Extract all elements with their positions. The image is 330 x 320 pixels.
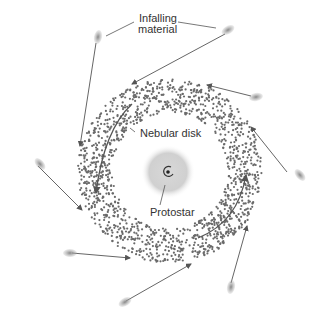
nebular-disk-diagram: Infalling material Nebular disk Protosta… [0, 0, 330, 320]
label-protostar: Protostar [150, 207, 195, 218]
label-infalling-line2: material [138, 24, 177, 35]
diagram-graphic [0, 0, 330, 320]
label-nebular-disk: Nebular disk [140, 128, 201, 139]
